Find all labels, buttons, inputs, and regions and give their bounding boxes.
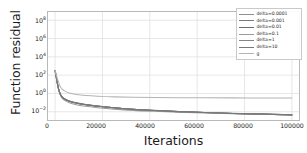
y-tick-label: 102: [2, 72, 46, 78]
figure: Function residual Iterations 108 106 104…: [0, 0, 307, 153]
legend-swatch: [239, 14, 254, 15]
legend-swatch: [239, 20, 254, 21]
legend-item[interactable]: delta=1: [239, 37, 299, 44]
legend-item[interactable]: delta=10: [239, 44, 299, 51]
legend-swatch: [239, 53, 254, 54]
y-tick-label: 100: [2, 90, 46, 96]
legend-item[interactable]: delta=0.001: [239, 18, 299, 25]
legend-item[interactable]: delta=0.0001: [239, 11, 299, 18]
series-line: [55, 71, 292, 115]
y-tick-label: 106: [2, 36, 46, 42]
y-tick-label: 104: [2, 54, 46, 60]
x-tick-label: 80000: [220, 123, 266, 129]
legend-swatch: [239, 47, 254, 48]
y-tick-label: 108: [2, 18, 46, 24]
legend-label: delta=0.0001: [257, 12, 288, 17]
series-line: [55, 71, 292, 115]
legend-swatch: [239, 27, 254, 28]
series-line: [55, 71, 292, 115]
data-curves: [55, 70, 292, 115]
x-tick-label: 0: [24, 123, 70, 129]
x-axis-title: Iterations: [47, 133, 300, 148]
legend-swatch: [239, 34, 254, 35]
legend-item[interactable]: g: [239, 51, 299, 58]
y-tick-label: 10−2: [2, 108, 46, 114]
series-line: [55, 70, 292, 98]
series-line: [55, 71, 292, 115]
series-line: [55, 71, 292, 115]
legend-swatch: [239, 40, 254, 41]
legend-label: delta=1: [257, 38, 275, 43]
series-line: [55, 71, 292, 115]
legend-label: delta=0.001: [257, 19, 285, 24]
legend-item[interactable]: delta=0.01: [239, 24, 299, 31]
x-tick-label: 100000: [269, 123, 307, 129]
x-tick-label: 40000: [122, 123, 168, 129]
legend-label: delta=0.01: [257, 25, 282, 30]
x-tick-label: 20000: [73, 123, 119, 129]
legend[interactable]: delta=0.0001delta=0.001delta=0.01delta=0…: [236, 8, 302, 60]
legend-label: delta=10: [257, 45, 278, 50]
legend-label: g: [257, 52, 260, 57]
x-tick-label: 60000: [171, 123, 217, 129]
legend-label: delta=0.1: [257, 32, 279, 37]
legend-item[interactable]: delta=0.1: [239, 31, 299, 38]
